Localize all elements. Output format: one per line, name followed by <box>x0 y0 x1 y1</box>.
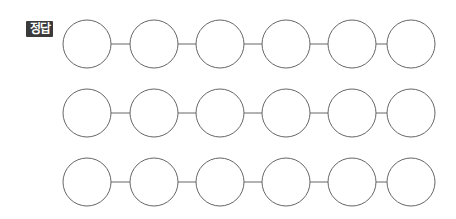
answer-circle <box>328 158 376 206</box>
answer-circle <box>63 20 111 68</box>
answer-circle <box>196 158 244 206</box>
answer-circle <box>262 20 310 68</box>
answer-circle <box>387 89 435 137</box>
answer-circle <box>63 158 111 206</box>
circle-chain-diagram <box>0 0 456 219</box>
answer-circle <box>262 89 310 137</box>
answer-circle <box>196 89 244 137</box>
circle-row-2 <box>63 89 435 137</box>
answer-circle <box>328 20 376 68</box>
answer-circle <box>130 158 178 206</box>
answer-circle <box>130 20 178 68</box>
circle-row-3 <box>63 158 435 206</box>
answer-circle <box>262 158 310 206</box>
circle-row-1 <box>63 20 435 68</box>
answer-circle <box>387 158 435 206</box>
answer-circle <box>63 89 111 137</box>
answer-circle <box>196 20 244 68</box>
answer-circle <box>130 89 178 137</box>
answer-circle <box>328 89 376 137</box>
answer-circle <box>387 20 435 68</box>
